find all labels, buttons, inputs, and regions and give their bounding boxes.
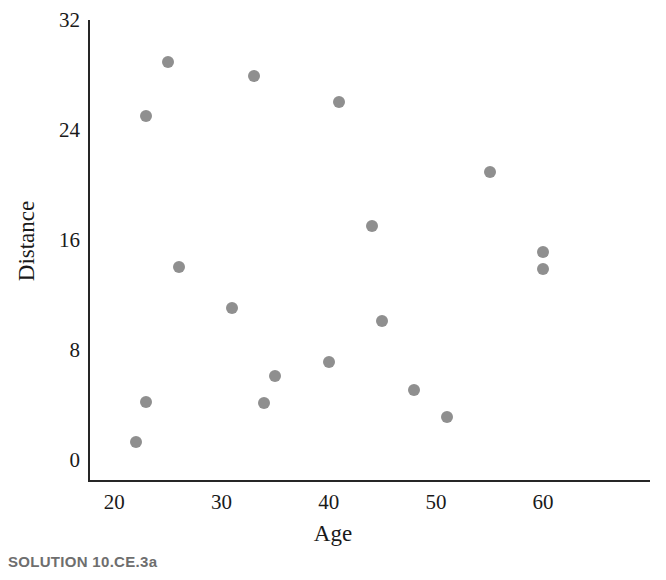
data-point <box>173 261 185 273</box>
data-point <box>258 397 270 409</box>
data-point <box>140 110 152 122</box>
data-point <box>441 411 453 423</box>
data-point <box>366 220 378 232</box>
data-point <box>408 384 420 396</box>
data-point <box>248 70 260 82</box>
y-axis-title: Distance <box>14 181 40 301</box>
x-axis-title: Age <box>0 521 666 547</box>
x-tick-60: 60 <box>513 492 573 513</box>
y-tick-label: 8 <box>70 340 81 361</box>
data-point <box>226 302 238 314</box>
y-tick-label: 32 <box>59 10 80 31</box>
data-point <box>130 436 142 448</box>
x-tick-30: 30 <box>192 492 252 513</box>
x-axis-line <box>88 480 650 482</box>
x-tick-20: 20 <box>84 492 144 513</box>
data-point <box>537 263 549 275</box>
data-point <box>333 96 345 108</box>
y-tick-label: 0 <box>70 450 81 471</box>
data-point <box>376 315 388 327</box>
scatter-plot-figure: 08162432 2030405060 Distance Age <box>0 0 666 580</box>
y-tick-label: 24 <box>59 120 80 141</box>
data-point <box>269 370 281 382</box>
data-point <box>484 166 496 178</box>
figure-caption: SOLUTION 10.CE.3a <box>8 553 157 570</box>
y-axis-line <box>88 20 90 482</box>
x-tick-50: 50 <box>406 492 466 513</box>
data-point <box>537 246 549 258</box>
data-point <box>140 396 152 408</box>
x-tick-40: 40 <box>299 492 359 513</box>
data-point <box>162 56 174 68</box>
data-point <box>323 356 335 368</box>
y-tick-label: 16 <box>59 230 80 251</box>
